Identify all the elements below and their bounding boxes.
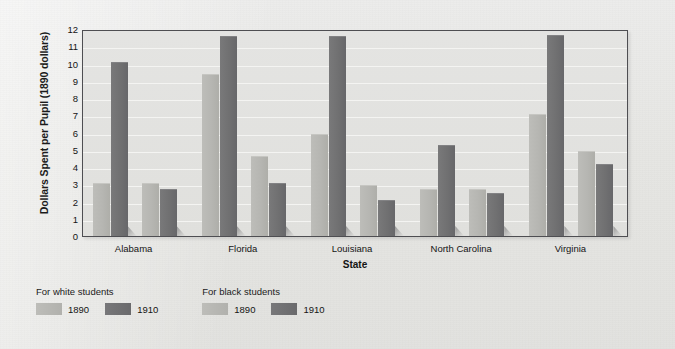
bar-shadow — [613, 226, 622, 236]
bar-body — [438, 145, 455, 236]
legend-swatch — [271, 303, 297, 315]
bar-body — [596, 164, 613, 236]
bar-body — [360, 185, 377, 236]
bar-body — [529, 114, 546, 236]
y-axis-tick-label: 3 — [73, 181, 78, 191]
bar — [160, 189, 177, 236]
chart-page: Dollars Spent per Pupil (1890 dollars) 0… — [0, 0, 675, 349]
x-axis-tick-label: Virginia — [555, 243, 587, 254]
legend-entry: 1910 — [271, 303, 324, 315]
bar-body — [378, 200, 395, 236]
bar — [311, 134, 328, 236]
legend-entry: 1890 — [202, 303, 255, 315]
bar — [360, 185, 377, 236]
bar-group — [311, 31, 395, 236]
bar-shadow — [346, 226, 355, 236]
legend-swatch — [36, 303, 62, 315]
y-axis-tick-label: 2 — [73, 198, 78, 208]
bar — [251, 156, 268, 236]
x-axis-title: State — [82, 259, 628, 270]
legend: For white students18901910For black stud… — [36, 286, 325, 315]
bar — [220, 36, 237, 236]
legend-label: 1910 — [137, 304, 158, 315]
bar-body — [487, 193, 504, 236]
x-axis-tick-label: North Carolina — [431, 243, 492, 254]
bar-group — [202, 31, 286, 236]
bar-body — [578, 151, 595, 236]
bar-shadow — [564, 226, 573, 236]
x-axis-tick-labels: AlabamaFloridaLouisianaNorth CarolinaVir… — [82, 243, 628, 257]
legend-group: For black students18901910 — [202, 286, 324, 315]
bar-shadow — [237, 226, 246, 236]
y-axis-tick-label: 4 — [73, 163, 78, 173]
bar — [578, 151, 595, 236]
bar — [142, 183, 159, 236]
bar-group — [93, 31, 177, 236]
bar — [111, 62, 128, 236]
bar — [487, 193, 504, 236]
y-axis-tick-label: 8 — [73, 94, 78, 104]
bar — [529, 114, 546, 236]
bar-group — [420, 31, 504, 236]
bar — [420, 189, 437, 236]
bar-body — [142, 183, 159, 236]
bar-body — [251, 156, 268, 236]
legend-label: 1890 — [234, 304, 255, 315]
legend-label: 1890 — [68, 304, 89, 315]
bar-group — [529, 31, 613, 236]
y-axis-tick-label: 1 — [73, 215, 78, 225]
bar-body — [160, 189, 177, 236]
bar — [202, 74, 219, 236]
bars-layer — [83, 31, 627, 236]
plot-area — [82, 30, 628, 237]
y-axis-tick-labels: 0123456789101112 — [52, 30, 78, 237]
bar-shadow — [128, 226, 137, 236]
legend-group-title: For black students — [202, 286, 324, 297]
bar-shadow — [286, 226, 295, 236]
y-axis-tick-label: 12 — [67, 25, 78, 35]
x-axis-tick-label: Louisiana — [332, 243, 373, 254]
legend-entry: 1910 — [105, 303, 158, 315]
y-axis-tick-label: 5 — [73, 146, 78, 156]
bar — [329, 36, 346, 236]
bar-body — [202, 74, 219, 236]
bar — [269, 183, 286, 236]
bar — [547, 35, 564, 236]
legend-entries: 18901910 — [202, 303, 324, 315]
legend-group-title: For white students — [36, 286, 158, 297]
bar-shadow — [455, 226, 464, 236]
bar-body — [269, 183, 286, 236]
legend-group: For white students18901910 — [36, 286, 158, 315]
bar-body — [469, 189, 486, 236]
bar-shadow — [177, 226, 186, 236]
legend-swatch — [202, 303, 228, 315]
y-axis-tick-label: 9 — [73, 77, 78, 87]
bar-body — [220, 36, 237, 236]
y-axis-tick-label: 0 — [73, 232, 78, 242]
bar-shadow — [504, 226, 513, 236]
y-axis-tick-label: 10 — [67, 60, 78, 70]
y-axis-tick-label: 7 — [73, 112, 78, 122]
bar-body — [329, 36, 346, 236]
x-axis-tick-label: Alabama — [115, 243, 153, 254]
bar-body — [311, 134, 328, 236]
legend-entries: 18901910 — [36, 303, 158, 315]
legend-swatch — [105, 303, 131, 315]
y-axis-title: Dollars Spent per Pupil (1890 dollars) — [38, 18, 50, 228]
bar — [596, 164, 613, 236]
legend-entry: 1890 — [36, 303, 89, 315]
bar — [469, 189, 486, 236]
bar — [378, 200, 395, 236]
bar-body — [111, 62, 128, 236]
y-axis-tick-label: 11 — [68, 43, 78, 53]
legend-label: 1910 — [303, 304, 324, 315]
bar-body — [547, 35, 564, 236]
bar — [438, 145, 455, 236]
bar-body — [93, 183, 110, 236]
bar-shadow — [395, 226, 404, 236]
bar — [93, 183, 110, 236]
bar-body — [420, 189, 437, 236]
x-axis-tick-label: Florida — [228, 243, 257, 254]
y-axis-tick-label: 6 — [73, 129, 78, 139]
